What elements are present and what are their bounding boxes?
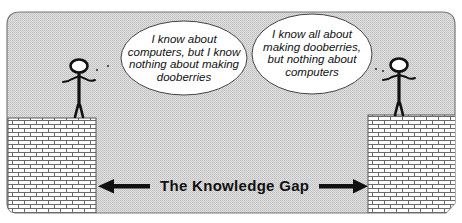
knowledge-gap-diagram: I know about computers, but I know nothi… <box>0 0 462 223</box>
right-brick-wall <box>368 115 456 214</box>
knowledge-gap-label: The Knowledge Gap <box>160 177 309 194</box>
left-brick-wall <box>8 118 96 214</box>
left-speech-text: I know about computers, but I know nothi… <box>124 33 244 83</box>
right-speech-text: I know all about making dooberries, but … <box>255 28 369 78</box>
